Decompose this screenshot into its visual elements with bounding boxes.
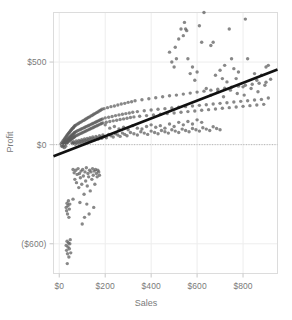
data-point — [191, 104, 194, 107]
data-point — [195, 70, 198, 73]
data-point — [117, 113, 120, 116]
data-point — [87, 212, 90, 215]
data-point — [262, 103, 265, 106]
data-point — [180, 127, 183, 130]
y-tick-label: $500 — [27, 57, 46, 67]
data-point — [86, 172, 89, 175]
data-point — [160, 129, 163, 132]
data-point — [211, 102, 214, 105]
data-point — [264, 81, 267, 84]
data-point — [71, 197, 74, 200]
data-point — [124, 112, 127, 115]
data-point — [66, 212, 69, 215]
data-point — [209, 88, 212, 91]
data-point — [132, 132, 135, 135]
data-point — [177, 37, 180, 40]
data-point — [140, 127, 143, 130]
data-point — [125, 134, 128, 137]
data-point — [241, 85, 244, 88]
data-point — [194, 128, 197, 131]
data-point — [205, 127, 208, 130]
data-point — [269, 78, 272, 81]
data-point — [149, 108, 152, 111]
data-point — [222, 95, 225, 98]
data-point — [66, 252, 69, 255]
data-point — [189, 91, 192, 94]
data-point — [129, 116, 132, 119]
data-point — [122, 117, 125, 120]
data-point — [223, 64, 226, 67]
data-point — [236, 92, 239, 95]
data-point — [89, 189, 92, 192]
data-point — [107, 116, 110, 119]
trend-line — [54, 69, 278, 156]
data-point — [131, 111, 134, 114]
data-points — [59, 11, 272, 265]
data-point — [228, 27, 231, 30]
data-point — [67, 216, 70, 219]
data-point — [193, 109, 196, 112]
data-point — [83, 170, 86, 173]
data-point — [237, 70, 240, 73]
data-point — [184, 129, 187, 132]
data-point — [182, 123, 185, 126]
data-point — [163, 126, 166, 129]
data-point — [214, 107, 217, 110]
data-point — [211, 41, 214, 44]
data-point — [145, 114, 148, 117]
data-point — [195, 118, 198, 121]
data-point — [202, 11, 205, 14]
data-point — [110, 115, 113, 118]
data-point — [205, 103, 208, 106]
data-point — [69, 238, 72, 241]
data-point — [128, 111, 131, 114]
data-point — [112, 135, 115, 138]
data-point — [205, 87, 208, 90]
chart-canvas — [0, 0, 292, 320]
data-point — [228, 106, 231, 109]
data-point — [263, 83, 266, 86]
data-point — [232, 100, 235, 103]
data-point — [126, 101, 129, 104]
data-point — [85, 202, 88, 205]
data-point — [225, 101, 228, 104]
data-point — [172, 125, 175, 128]
data-point — [138, 115, 141, 118]
data-point — [174, 45, 177, 48]
data-point — [198, 24, 201, 27]
data-point — [85, 166, 88, 169]
data-point — [221, 107, 224, 110]
data-point — [115, 119, 118, 122]
data-point — [133, 99, 136, 102]
data-point — [198, 104, 201, 107]
data-point — [256, 90, 259, 93]
data-point — [83, 216, 86, 219]
x-tick-label: $200 — [96, 281, 115, 291]
data-point — [186, 57, 189, 60]
data-point — [149, 123, 152, 126]
data-point — [67, 199, 70, 202]
data-point — [201, 126, 204, 129]
data-point — [75, 181, 78, 184]
data-point — [143, 109, 146, 112]
data-point — [154, 126, 157, 129]
data-point — [189, 72, 192, 75]
data-point — [207, 108, 210, 111]
data-point — [145, 125, 148, 128]
data-point — [129, 131, 132, 134]
data-point — [198, 129, 201, 132]
data-point — [246, 99, 249, 102]
data-point — [193, 79, 196, 82]
data-point — [251, 82, 254, 85]
x-tick-label: $400 — [141, 281, 160, 291]
data-point — [179, 27, 182, 30]
data-point — [186, 110, 189, 113]
data-point — [156, 132, 159, 135]
data-point — [78, 201, 81, 204]
data-point — [253, 98, 256, 101]
data-point — [232, 67, 235, 70]
data-point — [182, 92, 185, 95]
data-point — [68, 247, 71, 250]
data-point — [156, 108, 159, 111]
x-tick-label: $800 — [233, 281, 252, 291]
